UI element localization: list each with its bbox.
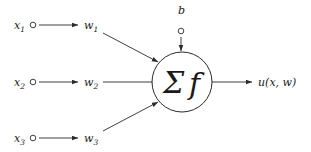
weight-label-w1: w1 <box>84 19 98 34</box>
input-node-dot-1[interactable] <box>30 22 36 28</box>
neuron-diagram: x1 w1 x2 w2 x3 <box>0 0 311 152</box>
neuron-body[interactable]: Σ f <box>152 52 212 112</box>
input-row-2: x2 w2 <box>14 76 158 91</box>
input-label-x2: x2 <box>14 76 25 91</box>
output-label: u(x, w) <box>258 76 296 89</box>
output-group: u(x, w) <box>212 76 296 89</box>
input-node-dot-3[interactable] <box>30 135 36 141</box>
weight-label-w2: w2 <box>84 76 98 91</box>
weight-label-w3: w3 <box>84 132 98 147</box>
input-label-x1: x1 <box>14 19 25 34</box>
neuron-diagram-canvas: x1 w1 x2 w2 x3 <box>0 0 311 152</box>
input-node-dot-2[interactable] <box>30 79 36 85</box>
input-row-3: x3 w3 <box>14 102 158 147</box>
bias-group: b <box>178 4 185 51</box>
summation-sigma-symbol: Σ <box>162 65 185 100</box>
bias-label-b: b <box>178 4 185 17</box>
weight-edge-3 <box>103 102 158 131</box>
bias-node-dot[interactable] <box>178 28 184 34</box>
input-label-x3: x3 <box>14 132 25 147</box>
weight-edge-1 <box>103 33 158 62</box>
input-row-1: x1 w1 <box>14 19 158 62</box>
